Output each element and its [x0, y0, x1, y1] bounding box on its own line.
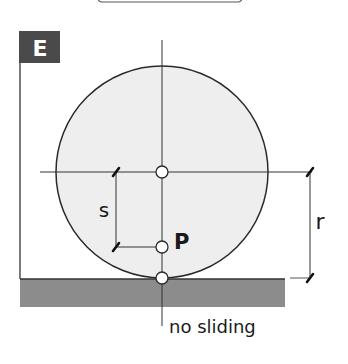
rolling-wheel-diagram: E s r P no sliding	[0, 0, 348, 364]
panel-label: E	[32, 36, 47, 61]
r-label: r	[315, 209, 325, 234]
contact-point	[156, 272, 168, 284]
top-box	[98, 0, 242, 2]
ground	[20, 279, 285, 307]
center-point	[156, 166, 168, 178]
no-sliding-annotation: no sliding	[169, 316, 256, 337]
s-label: s	[99, 198, 109, 222]
point-p	[156, 241, 168, 253]
point-p-label: P	[174, 230, 189, 254]
